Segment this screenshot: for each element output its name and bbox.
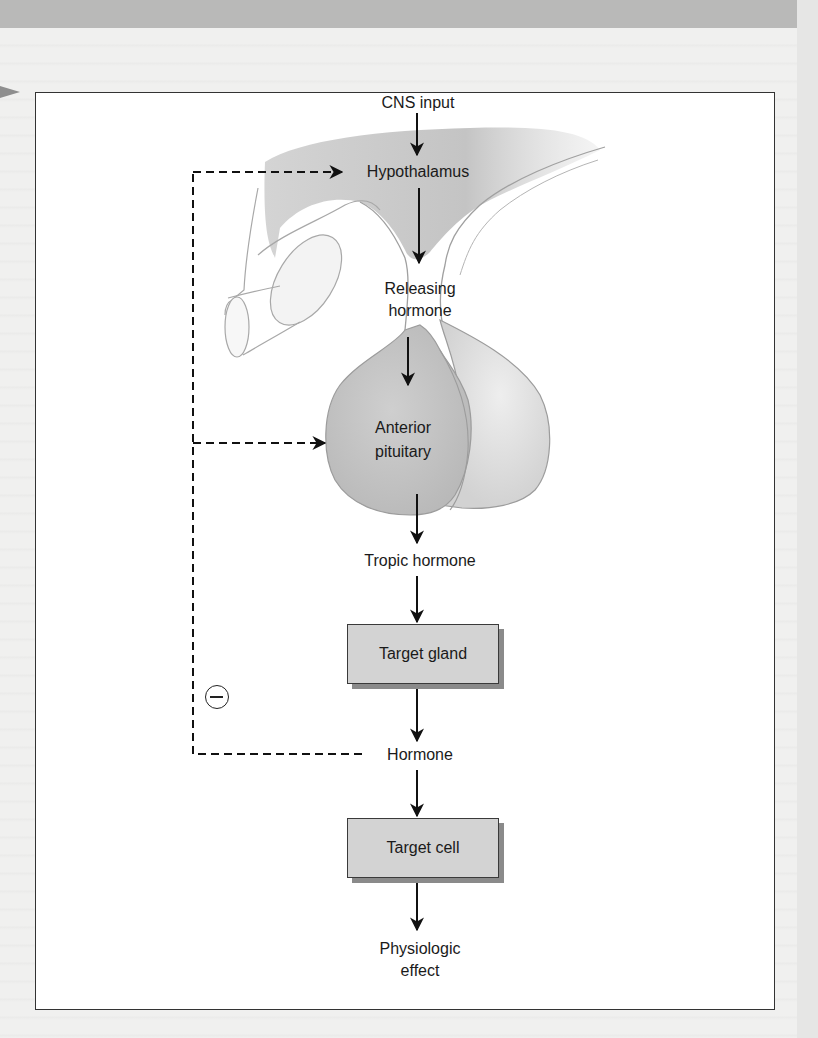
label-anterior-pituitary-2: pituitary: [353, 442, 453, 461]
label-anterior-pituitary-1: Anterior: [353, 418, 453, 437]
target-cell-box: Target cell: [347, 818, 499, 878]
negative-feedback-minus-icon: [205, 685, 229, 709]
label-cns-input: CNS input: [368, 93, 468, 112]
label-target-gland: Target gland: [379, 645, 467, 663]
label-releasing-hormone-2: hormone: [370, 301, 470, 320]
label-target-cell: Target cell: [387, 839, 460, 857]
label-hormone: Hormone: [365, 745, 475, 764]
label-tropic-hormone: Tropic hormone: [345, 551, 495, 570]
label-physiologic-effect-2: effect: [360, 961, 480, 980]
target-gland-box: Target gland: [347, 624, 499, 684]
label-physiologic-effect-1: Physiologic: [360, 939, 480, 958]
label-hypothalamus: Hypothalamus: [352, 162, 484, 181]
label-releasing-hormone-1: Releasing: [370, 279, 470, 298]
endocrine-axis-diagram: [0, 0, 818, 1038]
